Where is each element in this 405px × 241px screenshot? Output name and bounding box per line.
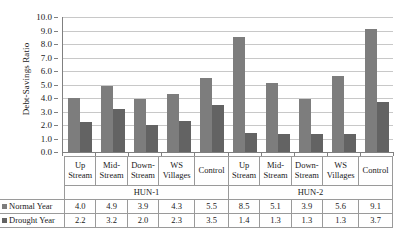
table-corner-blank: [0, 157, 65, 186]
category-label-line: Stream: [96, 171, 126, 181]
y-tick-mark: [54, 98, 58, 99]
y-tick-label: 10.0: [36, 13, 52, 22]
y-tick-label: 2.0: [41, 121, 52, 130]
table-row-categories: UpStreamMid-StreamDown-StreamWSVillagesC…: [0, 157, 393, 186]
table-value-cell: 5.5: [195, 200, 229, 214]
y-tick-mark: [54, 17, 58, 18]
bar-normal-year: [134, 99, 146, 152]
table-category-header: Mid-Stream: [260, 157, 291, 186]
chart-figure: Debt-Savings Ratio 10.09.08.07.06.05.04.…: [0, 0, 405, 241]
x-tick-mark: [393, 152, 394, 156]
bar-group: [63, 17, 96, 152]
category-label-line: Stream: [128, 171, 158, 181]
category-label-line: Villages: [159, 171, 194, 181]
y-axis-ticks: 10.09.08.07.06.05.04.03.02.01.00.0: [0, 17, 58, 152]
y-tick-mark: [54, 152, 58, 153]
y-tick-label: 4.0: [41, 94, 52, 103]
table-value-cell: 5.1: [260, 200, 291, 214]
legend-swatch-normal-icon: [2, 204, 7, 209]
category-label-line: Stream: [292, 171, 322, 181]
bar-normal-year: [299, 99, 311, 152]
bar-drought-year: [146, 125, 158, 152]
category-label-line: Control: [195, 166, 228, 176]
table-value-cell: 4.3: [159, 200, 195, 214]
bar-groups: [63, 17, 393, 152]
table-value-cell: 4.9: [96, 200, 127, 214]
y-tick-label: 9.0: [41, 26, 52, 35]
bar-group: [360, 17, 393, 152]
bar-group: [228, 17, 261, 152]
table-value-cell: 4.0: [65, 200, 96, 214]
bar-drought-year: [80, 122, 92, 152]
bar-group: [96, 17, 129, 152]
y-tick-mark: [54, 112, 58, 113]
table-category-header: Mid-Stream: [96, 157, 127, 186]
bar-drought-year: [377, 102, 389, 152]
y-tick-label: 5.0: [41, 80, 52, 89]
table-value-cell: 2.3: [159, 214, 195, 228]
bar-group: [261, 17, 294, 152]
table-value-cell: 3.5: [195, 214, 229, 228]
legend-normal-year: Normal Year: [0, 200, 65, 214]
bar-normal-year: [200, 78, 212, 152]
table-category-header: Control: [195, 157, 229, 186]
legend-drought-year: Drought Year: [0, 214, 65, 228]
y-tick-mark: [54, 125, 58, 126]
bar-drought-year: [245, 133, 257, 152]
table-category-header: Down-Stream: [127, 157, 158, 186]
y-tick-label: 6.0: [41, 67, 52, 76]
bar-group: [294, 17, 327, 152]
category-label-line: Stream: [229, 171, 259, 181]
bar-drought-year: [344, 134, 356, 152]
bar-drought-year: [113, 109, 125, 152]
table-value-cell: 2.0: [127, 214, 158, 228]
bar-normal-year: [68, 98, 80, 152]
bar-normal-year: [266, 83, 278, 152]
bar-normal-year: [101, 86, 113, 152]
table-category-header: WSVillages: [323, 157, 359, 186]
category-label-line: Control: [359, 166, 392, 176]
plot-area: [62, 17, 393, 152]
table-value-cell: 3.9: [291, 200, 322, 214]
table-category-header: UpStream: [65, 157, 96, 186]
bar-drought-year: [212, 105, 224, 152]
category-label-line: Stream: [260, 171, 290, 181]
y-tick-mark: [54, 31, 58, 32]
y-tick-label: 1.0: [41, 134, 52, 143]
bar-group: [327, 17, 360, 152]
table-group-header: HUN-2: [228, 186, 392, 200]
legend-swatch-drought-icon: [2, 218, 7, 223]
bar-group: [195, 17, 228, 152]
bar-drought-year: [278, 134, 290, 152]
y-tick-label: 7.0: [41, 53, 52, 62]
table-value-cell: 3.2: [96, 214, 127, 228]
table-value-cell: 1.3: [291, 214, 322, 228]
table-row-groups: HUN-1HUN-2: [0, 186, 393, 200]
data-table: UpStreamMid-StreamDown-StreamWSVillagesC…: [0, 156, 393, 228]
y-tick-mark: [54, 85, 58, 86]
y-tick-mark: [54, 58, 58, 59]
table-group-header: HUN-1: [65, 186, 229, 200]
table-value-cell: 3.9: [127, 200, 158, 214]
bar-drought-year: [311, 134, 323, 152]
category-label-line: Villages: [323, 171, 358, 181]
table-category-header: UpStream: [228, 157, 259, 186]
bar-normal-year: [365, 29, 377, 152]
table-value-cell: 2.2: [65, 214, 96, 228]
bar-group: [162, 17, 195, 152]
table-category-header: Down-Stream: [291, 157, 322, 186]
category-label-line: Stream: [65, 171, 95, 181]
table-row: Drought Year 2.23.22.02.33.51.41.31.31.3…: [0, 214, 393, 228]
bar-drought-year: [179, 121, 191, 152]
bar-normal-year: [332, 76, 344, 152]
series-name-normal: Normal Year: [9, 201, 52, 211]
y-tick-mark: [54, 71, 58, 72]
bar-normal-year: [233, 37, 245, 152]
table-value-cell: 5.6: [323, 200, 359, 214]
series-name-drought: Drought Year: [9, 215, 55, 225]
bar-group: [129, 17, 162, 152]
table-value-cell: 3.7: [359, 214, 393, 228]
y-tick-mark: [54, 139, 58, 140]
table-row: Normal Year 4.04.93.94.35.58.55.13.95.69…: [0, 200, 393, 214]
y-tick-label: 8.0: [41, 40, 52, 49]
